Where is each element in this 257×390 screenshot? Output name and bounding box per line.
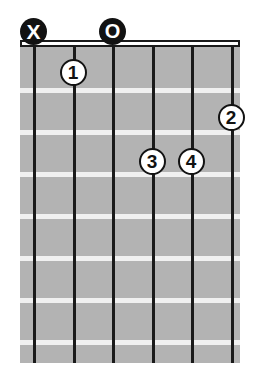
finger-dot-4: 4 <box>178 148 205 175</box>
finger-dot-3: 3 <box>139 148 166 175</box>
finger-dot-1: 1 <box>60 59 87 86</box>
string-line-1 <box>33 45 36 363</box>
string-line-5 <box>191 45 194 363</box>
fret-line <box>20 214 240 219</box>
string-line-4 <box>152 45 155 363</box>
muted-string-marker: X <box>20 18 47 45</box>
string-line-2 <box>73 45 76 363</box>
fret-line <box>20 172 240 177</box>
fret-line <box>20 130 240 135</box>
open-string-marker: O <box>99 18 126 45</box>
chord-diagram: X O 1 2 3 4 <box>0 0 257 390</box>
string-line-6 <box>231 45 234 363</box>
string-line-3 <box>112 45 115 363</box>
nut-bar <box>20 40 240 47</box>
fret-line <box>20 340 240 345</box>
fret-line <box>20 256 240 261</box>
fretboard <box>20 47 240 363</box>
fret-line <box>20 88 240 93</box>
finger-dot-2: 2 <box>218 104 245 131</box>
fret-line <box>20 298 240 303</box>
